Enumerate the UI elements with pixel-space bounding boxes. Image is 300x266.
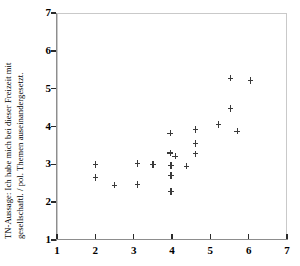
plot-frame: [57, 13, 287, 240]
y-tick-label-3: 3: [31, 157, 51, 169]
x-tick-label-7: 7: [277, 244, 297, 256]
x-tick-4: [171, 234, 173, 239]
y-tick-4: [51, 126, 56, 128]
y-axis-title-line-1: TN-Aussage: Ich habe mich bei dieser Fre…: [3, 63, 13, 239]
y-tick-6: [51, 50, 56, 52]
x-tick-label-5: 5: [200, 244, 220, 256]
scatter-plot: TN-Aussage: Ich habe mich bei dieser Fre…: [0, 0, 300, 266]
y-tick-label-4: 4: [31, 120, 51, 132]
y-tick-label-2: 2: [31, 195, 51, 207]
x-axis-line: [56, 239, 288, 240]
x-tick-2: [95, 234, 97, 239]
y-tick-label-7: 7: [31, 6, 51, 18]
y-tick-1: [51, 239, 56, 241]
y-tick-3: [51, 164, 56, 166]
x-tick-label-2: 2: [85, 244, 105, 256]
y-tick-label-5: 5: [31, 82, 51, 94]
x-tick-5: [210, 234, 212, 239]
y-axis-line: [56, 13, 57, 241]
x-tick-6: [248, 234, 250, 239]
y-axis-title: TN-Aussage: Ich habe mich bei dieser Fre…: [0, 0, 30, 245]
x-tick-label-4: 4: [162, 244, 182, 256]
x-tick-label-6: 6: [239, 244, 259, 256]
x-tick-label-1: 1: [47, 244, 67, 256]
y-tick-5: [51, 88, 56, 90]
x-tick-7: [286, 234, 288, 239]
y-tick-label-6: 6: [31, 44, 51, 56]
x-tick-label-3: 3: [124, 244, 144, 256]
x-tick-3: [133, 234, 135, 239]
x-tick-1: [56, 234, 58, 239]
y-tick-7: [51, 12, 56, 14]
y-tick-2: [51, 201, 56, 203]
y-axis-title-line-2: gesellschaftl. / pol. Themen auseinander…: [15, 72, 25, 239]
